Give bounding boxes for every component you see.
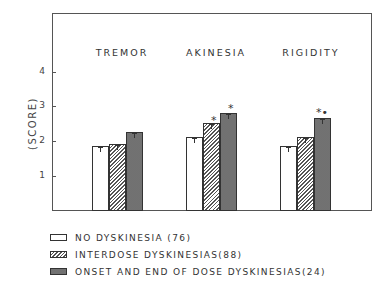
y-tick-label-1: 1 [37, 170, 45, 180]
bar-rigidity-hatch [297, 137, 314, 211]
legend-label: INTERDOSE DYSKINESIAS(88) [75, 250, 242, 260]
bar-tremor-dots [126, 132, 143, 211]
category-label-tremor: TREMOR [77, 47, 167, 58]
y-tick-2 [52, 141, 56, 142]
y-tick-3 [52, 106, 56, 107]
legend-item-no-dyskinesia: NO DYSKINESIA (76) [50, 229, 326, 246]
category-label-rigidity: RIGIDITY [266, 47, 356, 58]
legend-swatch-dotted [50, 268, 67, 275]
error-bar [194, 138, 195, 143]
error-bar [322, 119, 323, 124]
error-bar [134, 133, 135, 138]
y-tick-label-3: 3 [37, 100, 45, 110]
error-bar [100, 147, 101, 152]
legend-swatch-hatched [50, 251, 67, 258]
error-bar [117, 145, 118, 150]
bar-tremor-hatch [109, 144, 126, 211]
bar-akinesia-hatch [203, 123, 220, 211]
y-tick-1 [52, 176, 56, 177]
category-label-akinesia: AKINESIA [171, 47, 261, 58]
bar-akinesia-dots [220, 113, 237, 211]
y-tick-4 [52, 72, 56, 73]
legend-label: NO DYSKINESIA (76) [75, 233, 191, 243]
bar-rigidity-dots [314, 118, 331, 211]
y-tick-label-4: 4 [37, 66, 45, 76]
y-axis-label: (SCORE) [27, 94, 38, 154]
significance-marker: * [211, 115, 217, 126]
legend-item-onset-end: ONSET AND END OF DOSE DYSKINESIAS(24) [50, 263, 326, 280]
legend-label: ONSET AND END OF DOSE DYSKINESIAS(24) [75, 267, 326, 277]
legend: NO DYSKINESIA (76) INTERDOSE DYSKINESIAS… [50, 229, 326, 280]
error-bar [305, 138, 306, 143]
significance-marker: *• [316, 107, 328, 118]
y-tick-label-2: 2 [37, 135, 45, 145]
bar-tremor-white [92, 146, 109, 211]
legend-swatch-white [50, 234, 67, 241]
legend-item-interdose: INTERDOSE DYSKINESIAS(88) [50, 246, 326, 263]
bar-rigidity-white [280, 146, 297, 211]
bar-akinesia-white [186, 137, 203, 211]
significance-marker: * [228, 103, 234, 114]
error-bar [288, 147, 289, 152]
